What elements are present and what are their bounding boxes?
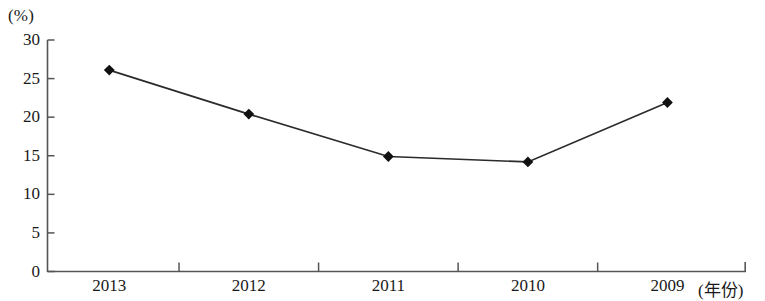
chart-canvas	[0, 0, 765, 301]
data-point-marker	[662, 97, 673, 108]
y-axis-ticks	[48, 40, 55, 272]
line-chart: (%) 051015202530 20132012201120102009 (年…	[0, 0, 765, 301]
y-axis-tick-label: 0	[0, 262, 40, 282]
data-point-marker	[522, 157, 533, 168]
x-axis-title: (年份)	[698, 276, 743, 301]
y-axis-tick-label: 20	[0, 107, 40, 127]
x-axis-tick-label: 2011	[372, 276, 405, 296]
x-axis-ticks	[179, 263, 598, 272]
x-axis-tick-label: 2013	[92, 276, 126, 296]
y-axis-tick-label: 5	[0, 223, 40, 243]
data-series-line	[109, 70, 667, 162]
y-axis-tick-label: 10	[0, 184, 40, 204]
data-point-marker	[243, 109, 254, 120]
x-axis-tick-label: 2012	[232, 276, 266, 296]
x-axis-tick-label: 2010	[511, 276, 545, 296]
y-axis-tick-label: 15	[0, 146, 40, 166]
y-axis-tick-label: 30	[0, 30, 40, 50]
data-point-marker	[104, 65, 115, 76]
data-point-markers	[104, 65, 673, 168]
x-axis-tick-label: 2009	[650, 276, 684, 296]
y-axis-tick-label: 25	[0, 69, 40, 89]
data-point-marker	[383, 151, 394, 162]
